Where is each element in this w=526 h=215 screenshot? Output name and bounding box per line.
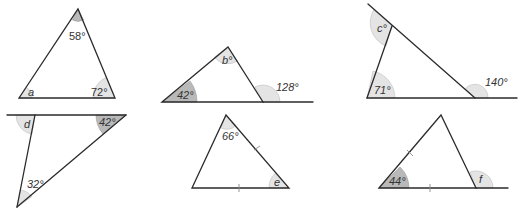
triangle-3: c° 71° 140° — [367, 4, 517, 98]
angle-label-128: 128° — [276, 81, 299, 93]
angle-label-71: 71° — [374, 84, 391, 96]
angle-label-72: 72° — [91, 86, 108, 98]
angle-label-a: a — [28, 86, 34, 98]
angle-label-140: 140° — [485, 76, 508, 88]
triangle-1: 58° a 72° — [19, 9, 115, 98]
angle-label-c: c° — [377, 22, 388, 34]
triangle-6: 44° f — [379, 115, 508, 192]
angle-label-58: 58° — [69, 30, 86, 42]
angle-label-d: d — [24, 118, 31, 130]
angle-label-42-top: 42° — [99, 116, 116, 128]
angle-label-b: b° — [222, 54, 233, 66]
triangle-2: b° 42° 128° — [162, 47, 313, 102]
angle-label-32: 32° — [27, 178, 44, 190]
angle-label-e: e — [274, 176, 280, 188]
angle-label-42: 42° — [177, 89, 194, 101]
triangle-4-right-side — [17, 115, 126, 207]
triangle-4: d 42° 32° — [7, 115, 126, 207]
angles-diagram: 58° a 72° b° 42° 128° c° 71° 140° d 42° … — [0, 0, 526, 215]
angle-label-44: 44° — [389, 175, 406, 187]
angle-label-66: 66° — [222, 130, 239, 142]
triangle-5: 66° e — [192, 115, 289, 192]
